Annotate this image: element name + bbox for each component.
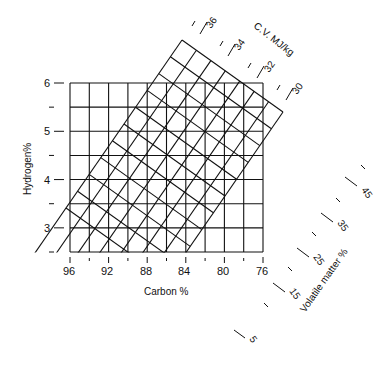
y-tick-label: 5 bbox=[44, 125, 50, 137]
vm-tick-label: 45 bbox=[359, 185, 375, 201]
x-tick-label: 80 bbox=[217, 265, 229, 277]
x-tick-label: 76 bbox=[256, 265, 268, 277]
y-tick-label: 4 bbox=[44, 174, 50, 186]
carbon-hydrogen-grid bbox=[70, 83, 263, 252]
x-tick-label: 84 bbox=[178, 265, 190, 277]
coal-nomogram: 6 5 4 3 Hydrogen% 96 92 88 84 80 76 Carb… bbox=[0, 0, 386, 365]
x-tick-label: 92 bbox=[101, 265, 113, 277]
cv-tick-label: 36 bbox=[204, 14, 220, 30]
x-tick-label: 96 bbox=[63, 265, 75, 277]
vm-tick-label: 35 bbox=[335, 218, 351, 234]
cv-tick-label: 30 bbox=[290, 80, 306, 96]
y-tick-label: 3 bbox=[44, 222, 50, 234]
y-axis-title: Hydrogen% bbox=[22, 143, 33, 195]
x-tick-label: 88 bbox=[140, 265, 152, 277]
y-tick-label: 6 bbox=[44, 77, 50, 89]
x-axis-title: Carbon % bbox=[144, 286, 189, 297]
cv-scale-title: C.V. MJ/kg bbox=[252, 20, 297, 58]
vm-tick-label: 25 bbox=[311, 252, 327, 268]
vm-tick-label: 5 bbox=[247, 334, 259, 345]
vm-tick-label: 15 bbox=[287, 286, 303, 302]
cv-tick-label: 34 bbox=[232, 36, 248, 52]
cv-tick-label: 32 bbox=[262, 58, 278, 74]
